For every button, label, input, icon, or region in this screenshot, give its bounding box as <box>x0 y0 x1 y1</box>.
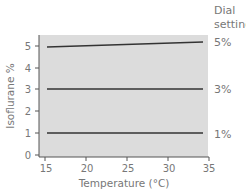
x-tick-25: 25 <box>122 163 135 174</box>
y-tick-4: 4 <box>25 63 31 74</box>
y-tick-1: 1 <box>25 128 31 139</box>
y-axis-label: Isoflurane % <box>4 63 16 128</box>
legend-title-line2: setting <box>214 18 246 31</box>
x-tick-30: 30 <box>163 163 176 174</box>
x-tick-20: 20 <box>81 163 94 174</box>
legend-label-5pct: 5% <box>214 36 231 49</box>
y-tick-2: 2 <box>25 106 31 117</box>
chart: 0 1 2 3 4 5 15 20 25 30 35 Temperature (… <box>0 0 246 193</box>
legend-label-1pct: 1% <box>214 128 231 141</box>
x-tick-labels: 15 20 25 30 35 <box>40 163 216 174</box>
legend-title-line1: Dial <box>214 4 235 17</box>
y-tick-5: 5 <box>25 41 31 52</box>
y-tick-0: 0 <box>25 150 31 161</box>
x-tick-15: 15 <box>40 163 53 174</box>
legend-label-3pct: 3% <box>214 83 231 96</box>
x-axis-label: Temperature (°C) <box>78 177 170 189</box>
y-tick-3: 3 <box>25 84 31 95</box>
x-ticks <box>45 157 209 161</box>
y-ticks <box>35 46 39 155</box>
plot-area <box>39 35 208 157</box>
y-tick-labels: 0 1 2 3 4 5 <box>25 41 31 161</box>
x-tick-35: 35 <box>203 163 216 174</box>
